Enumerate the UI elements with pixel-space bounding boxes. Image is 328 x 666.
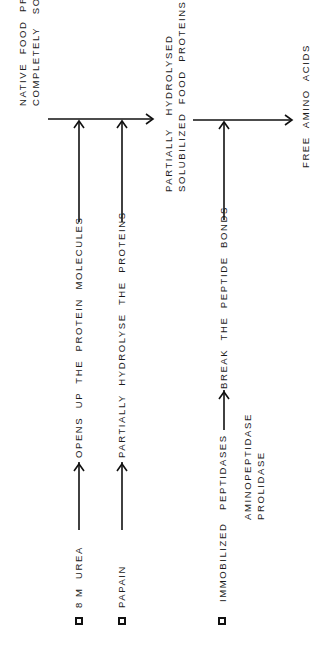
papain-label: PAPAIN — [116, 565, 127, 608]
papain-checkbox-icon[interactable] — [118, 617, 126, 625]
state-partial-line-1: PARTIALLY HYDROLYSED — [163, 35, 174, 192]
peptidases-effect: BREAK THE PEPTIDE BONDS — [218, 206, 229, 389]
peptidases-label: IMMOBILIZED PEPTIDASES — [217, 434, 228, 602]
state-native-line-1: NATIVE FOOD PROTEINS NOT — [17, 0, 28, 106]
main-arrow-1-icon — [48, 114, 153, 124]
state-free: FREE AMINO ACIDS — [300, 44, 311, 168]
state-partial-line-2: SOLUBILIZED FOOD PROTEINS — [176, 0, 187, 192]
peptidases-sub-2: PROLIDASE — [255, 451, 266, 520]
main-arrow-2-icon — [193, 115, 292, 125]
peptidases-checkbox-icon[interactable] — [218, 617, 226, 625]
process-diagram: NATIVE FOOD PROTEINS NOT COMPLETELY SOLU… — [0, 0, 328, 666]
urea-label: 8 M UREA — [73, 546, 84, 608]
urea-checkbox-icon[interactable] — [75, 617, 83, 625]
state-native-line-2: COMPLETELY SOLUBLE — [30, 0, 41, 106]
urea-effect: OPENS UP THE PROTEIN MOLECULES — [73, 217, 84, 458]
papain-effect: PARTIALLY HYDROLYSE THE PROTEINS — [116, 211, 127, 458]
peptidases-sub-1: AMINOPEPTIDASE — [242, 413, 253, 520]
